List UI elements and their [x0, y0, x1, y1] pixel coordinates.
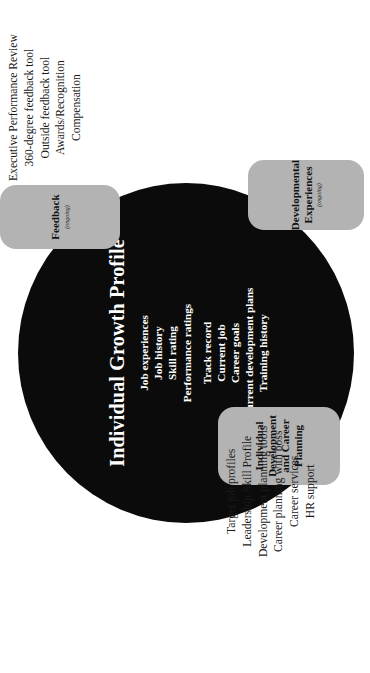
list-item: Career services — [287, 426, 303, 557]
node-feedback[interactable]: Feedback (ongoing) — [0, 185, 120, 249]
node-developmental-experiences[interactable]: Developmental Experiences (ongoing) — [248, 160, 364, 230]
feedback-item-list: Executive Performance Review 360-degree … — [6, 34, 85, 181]
list-item: Awards/Recognition — [53, 34, 69, 181]
core-item: Skill rating — [165, 288, 179, 419]
node-developmental-experiences-subtitle: (ongoing) — [316, 183, 323, 207]
core-group-b: Track record Current job Career goals Cu… — [200, 288, 271, 419]
core-item: Job history — [151, 288, 165, 419]
core-item: Performance ratings — [180, 288, 194, 419]
core-attribute-list: Job experiences Job history Skill rating… — [137, 288, 270, 419]
core-item: Current development plans — [242, 288, 256, 419]
list-item: Compensation — [69, 34, 85, 181]
core-item: Training history — [256, 288, 270, 419]
core-item: Career goals — [228, 288, 242, 419]
list-item: Executive Performance Review — [6, 34, 22, 181]
core-group-a: Job experiences Job history Skill rating… — [137, 288, 193, 419]
list-item: Career planning with boss — [271, 426, 287, 557]
list-item: Leadership Skill Profile — [240, 426, 256, 557]
diagram-canvas: Individual Growth Profile Job experience… — [0, 0, 370, 673]
node-feedback-subtitle: (ongoing) — [64, 205, 71, 229]
list-item: Target job profiles — [224, 426, 240, 557]
core-item: Job experiences — [137, 288, 151, 419]
list-item: Development planning tools — [256, 426, 272, 557]
list-item: Outside feedback tool — [38, 34, 54, 181]
node-feedback-title: Feedback — [49, 194, 62, 239]
individual-development-item-list: Target job profiles Leadership Skill Pro… — [224, 426, 319, 557]
list-item: HR support — [303, 426, 319, 557]
core-item: Current job — [214, 288, 228, 419]
core-item: Track record — [200, 288, 214, 419]
list-item: 360-degree feedback tool — [22, 34, 38, 181]
core-title: Individual Growth Profile — [106, 239, 128, 467]
node-developmental-experiences-title: Developmental Experiences — [289, 160, 315, 230]
